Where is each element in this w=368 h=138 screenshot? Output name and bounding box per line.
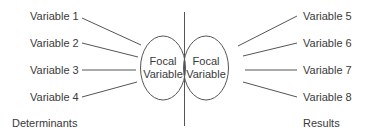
- results-caption: Results: [303, 117, 340, 130]
- determinants-caption: Determinants: [12, 117, 77, 130]
- determinant-variable-2: Variable 2: [30, 37, 79, 50]
- left-focal-label: Focal Variable: [140, 55, 186, 81]
- determinant-variable-4: Variable 4: [30, 91, 79, 104]
- connector-variable-5: [238, 16, 297, 46]
- connector-variable-6: [243, 43, 297, 56]
- connector-variable-2: [82, 43, 138, 57]
- determinant-variable-3: Variable 3: [30, 64, 79, 77]
- right-focal-line1: Focal: [183, 55, 229, 68]
- connector-variable-1: [82, 18, 141, 45]
- left-focal-line1: Focal: [140, 55, 186, 68]
- right-focal-line2: Variable: [183, 68, 229, 81]
- left-focal-line2: Variable: [140, 68, 186, 81]
- result-variable-6: Variable 6: [303, 37, 352, 50]
- connector-variable-4: [82, 82, 137, 97]
- determinant-variable-1: Variable 1: [30, 10, 79, 23]
- result-variable-7: Variable 7: [303, 64, 352, 77]
- result-variable-8: Variable 8: [303, 91, 352, 104]
- result-variable-5: Variable 5: [303, 10, 352, 23]
- right-focal-label: Focal Variable: [183, 55, 229, 81]
- connector-variable-8: [243, 82, 297, 97]
